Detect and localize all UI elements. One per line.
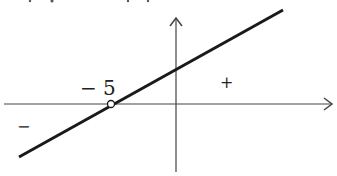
- function-line: [19, 10, 283, 157]
- root-point: [108, 101, 115, 108]
- negative-sign-label: −: [17, 117, 30, 136]
- top-cutoff-text: [29, 0, 149, 3]
- positive-sign-label: +: [220, 73, 233, 92]
- sign-diagram: − 5 + −: [0, 0, 337, 176]
- root-label: − 5: [80, 76, 116, 100]
